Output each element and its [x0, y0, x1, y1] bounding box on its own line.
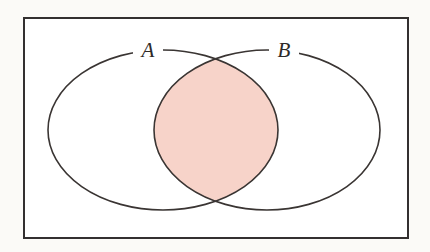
set-b-label: B: [278, 38, 291, 62]
venn-diagram-figure: A B: [0, 0, 430, 252]
venn-diagram-canvas: A B: [0, 0, 430, 252]
set-a-label: A: [140, 38, 155, 62]
